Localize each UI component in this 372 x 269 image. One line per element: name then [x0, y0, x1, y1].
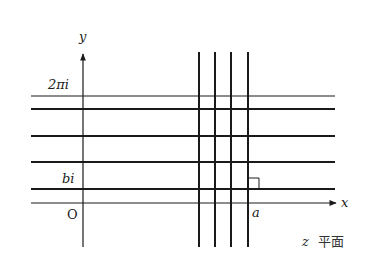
bi-label: bi: [62, 171, 74, 186]
z-plane-diagram: y x O 2πi bi a z 平面: [0, 0, 372, 269]
plane-title: z 平面: [301, 234, 344, 249]
origin-label: O: [67, 207, 78, 222]
two-pi-i-label: 2πi: [47, 77, 69, 92]
vertical-lines: [199, 52, 248, 247]
plane-word: 平面: [318, 234, 344, 249]
right-angle-marker: [248, 178, 259, 189]
x-axis-label: x: [341, 195, 349, 210]
a-label: a: [252, 205, 260, 220]
horizontal-lines: [31, 96, 335, 189]
plane-variable: z: [301, 234, 309, 249]
y-axis-label: y: [78, 29, 87, 44]
